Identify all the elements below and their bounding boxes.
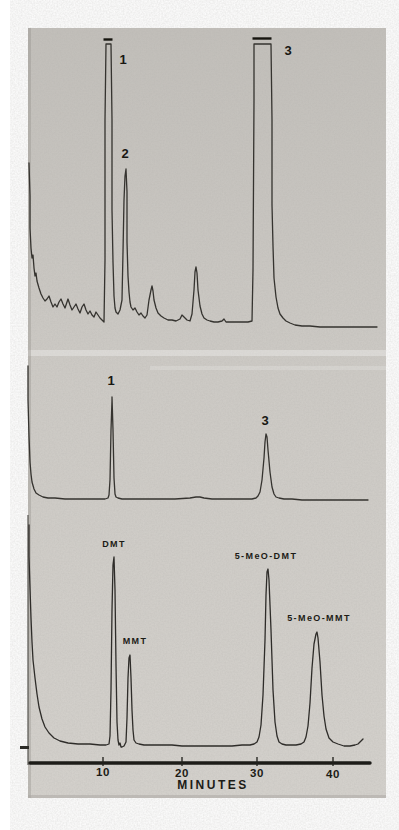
peak-label-5-meo-dmt: 5-MeO-DMT: [235, 551, 298, 561]
photo-bottom-edge: [28, 795, 386, 798]
peak-label-mmt: MMT: [123, 636, 148, 646]
x-tick-label-10: 10: [96, 766, 110, 778]
x-axis-title: MINUTES: [177, 778, 249, 792]
x-tick-label-40: 40: [326, 768, 340, 780]
peak-label-1-middle: 1: [107, 373, 114, 388]
page: 1 2 3 1 3 DMT MMT 5-MeO-DMT 5-MeO-MMT 10…: [0, 0, 399, 830]
x-tick-label-30: 30: [250, 767, 264, 779]
recorder-pen-mark: [20, 746, 29, 749]
scan-streak: [150, 366, 386, 370]
peak-label-3-middle: 3: [261, 413, 268, 428]
peak-label-5-meo-mmt: 5-MeO-MMT: [287, 613, 351, 623]
peak-label-1-top: 1: [119, 52, 126, 67]
scan-streak: [28, 350, 386, 356]
peak-label-2-top: 2: [121, 146, 128, 161]
photo-background: [20, 28, 386, 798]
chromatogram-figure: 1 2 3 1 3 DMT MMT 5-MeO-DMT 5-MeO-MMT 10…: [0, 0, 399, 830]
peak-label-dmt: DMT: [102, 539, 126, 549]
peak-label-3-top: 3: [284, 43, 291, 58]
